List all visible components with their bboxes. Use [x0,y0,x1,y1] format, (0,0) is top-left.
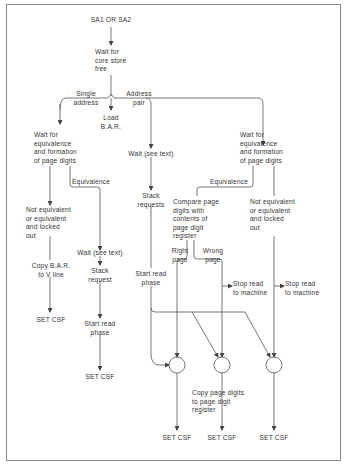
right-equivalence-label: Equivalence [210,178,248,187]
mid-stack-request-node: Stack request [80,267,120,284]
stop-read-node-1: Stop read to machine [233,280,267,297]
copy-page-digits-node: Copy page digits to page digit register [192,389,244,415]
mid-wait-node: Wait (see text) [72,249,128,258]
start-node: SA1 OR SA2 [86,16,136,25]
left-wait-equivalence-node: Wait for equivalence and formation of pa… [34,131,77,165]
pair-start-read-node: Start read phase [127,270,175,287]
bottom-set-csf-2: SET CSF [200,434,244,443]
left-set-csf: SET CSF [28,316,74,325]
left-equivalence-label: Equivalence [72,178,110,187]
wait-core-store-node: Wait for core store free [95,48,126,74]
pair-wait-node: Wait (see text) [123,150,179,159]
address-pair-label: Address pair [119,90,159,107]
single-address-label: Single address [66,90,106,107]
wrong-page-label: Wrong page [200,247,226,264]
left-not-equivalent-node: Not equivalent or equivalent and locked … [26,206,71,240]
right-not-equivalent-node: Not equivalent or equivalent and locked … [250,198,295,232]
stop-read-node-2: Stop read to machine [285,280,319,297]
mid-set-csf: SET CSF [78,373,122,382]
pair-stack-requests-node: Stack requests [131,192,171,209]
mid-start-read-node: Start read phase [76,320,124,337]
load-bar-node: Load B.A.R. [95,114,127,131]
right-wait-equivalence-node: Wait for equivalence and formation of pa… [240,131,283,165]
bottom-set-csf-1: SET CSF [155,434,199,443]
copy-bar-node: Copy B.A.R. to V line [28,262,74,279]
compare-page-digits-node: Compare page digits with contents of pag… [173,198,219,241]
right-page-label: Right page [168,247,192,264]
bottom-set-csf-3: SET CSF [252,434,296,443]
